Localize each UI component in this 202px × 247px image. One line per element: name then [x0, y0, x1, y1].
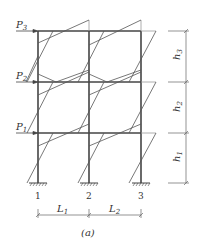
column-label-1: 1	[35, 191, 41, 201]
span-label-l2: L2	[108, 203, 121, 216]
figure-caption: (a)	[81, 227, 95, 238]
load-label-p1: P1	[15, 121, 27, 134]
height-label-h3: h3	[171, 49, 184, 60]
frame-diagram: P3 P2 P1 1 2 3 L1 L2 h3 h2 h1 (a)	[0, 0, 202, 247]
moment-diagrams	[26, 20, 156, 183]
column-label-3: 3	[138, 191, 144, 201]
load-label-p2: P2	[15, 70, 28, 83]
height-label-h1: h1	[171, 151, 184, 162]
span-dimension	[36, 209, 143, 218]
fixed-supports	[29, 183, 150, 186]
column-label-2: 2	[86, 191, 92, 201]
height-label-h2: h2	[171, 101, 184, 112]
load-label-p3: P3	[15, 19, 28, 32]
span-label-l1: L1	[56, 203, 68, 216]
